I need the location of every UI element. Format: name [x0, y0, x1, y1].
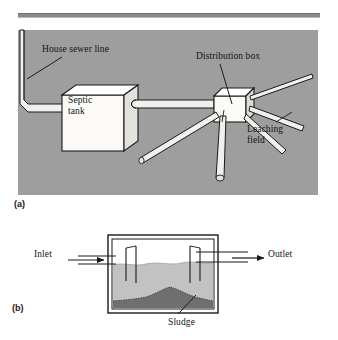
panel-tag-b: (b) — [12, 303, 24, 313]
tank-inner-wall — [112, 239, 214, 309]
tank-liquid — [113, 262, 213, 308]
inlet-baffle — [126, 246, 136, 283]
tank-liquid-surface — [113, 262, 213, 265]
sludge-texture — [113, 287, 213, 301]
figure-septic-system: House sewer line Distribution box Septic… — [0, 0, 338, 340]
sludge-mound — [113, 287, 213, 308]
label-septic-tank-line2: tank — [68, 106, 92, 117]
label-house-sewer-line: House sewer line — [42, 44, 109, 55]
label-leaching-field-line2: field — [247, 135, 283, 146]
label-inlet: Inlet — [34, 249, 52, 260]
label-leaching-field: Leaching field — [247, 124, 283, 146]
label-septic-tank: Septic tank — [68, 95, 92, 117]
label-outlet: Outlet — [268, 249, 292, 260]
panel-tag-a: (a) — [14, 199, 25, 209]
label-distribution-box: Distribution box — [196, 51, 260, 62]
tank-outer-wall — [108, 235, 218, 313]
header-divider-rule — [18, 13, 320, 18]
inlet-pipe — [78, 256, 116, 264]
outlet-pipe — [196, 252, 248, 262]
panel-b-artwork — [68, 235, 264, 314]
outlet-baffle — [190, 246, 200, 283]
label-septic-tank-line1: Septic — [68, 95, 92, 106]
label-leaching-field-line1: Leaching — [247, 124, 283, 135]
label-sludge: Sludge — [168, 317, 195, 328]
sludge-leader — [178, 295, 196, 314]
